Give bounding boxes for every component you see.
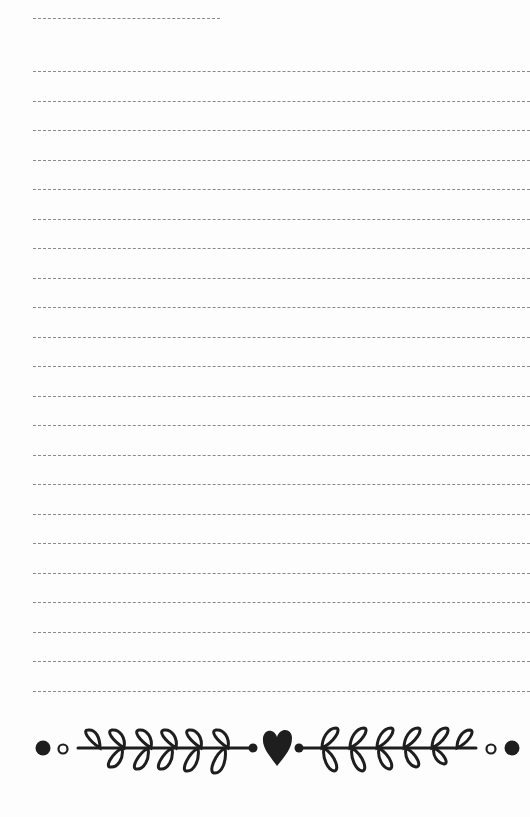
writing-line[interactable] xyxy=(33,691,530,692)
ring-icon xyxy=(487,745,496,754)
writing-lines xyxy=(0,0,530,700)
heart-icon xyxy=(263,730,292,766)
dot-icon xyxy=(505,741,520,756)
writing-line[interactable] xyxy=(33,189,530,190)
writing-line[interactable] xyxy=(33,484,530,485)
ring-icon xyxy=(59,745,68,754)
writing-line[interactable] xyxy=(33,71,530,72)
writing-line[interactable] xyxy=(33,248,530,249)
writing-line[interactable] xyxy=(33,307,530,308)
laurel-branch-right-icon xyxy=(295,728,477,771)
writing-line[interactable] xyxy=(33,278,530,279)
writing-line[interactable] xyxy=(33,602,530,603)
writing-line[interactable] xyxy=(33,130,530,131)
laurel-branch-left-icon xyxy=(78,730,258,773)
writing-line[interactable] xyxy=(33,337,530,338)
writing-line[interactable] xyxy=(33,573,530,574)
writing-line[interactable] xyxy=(33,661,530,662)
writing-line[interactable] xyxy=(33,160,530,161)
writing-line[interactable] xyxy=(33,514,530,515)
ornament-divider xyxy=(0,712,530,782)
dot-icon xyxy=(36,741,51,756)
writing-line[interactable] xyxy=(33,543,530,544)
writing-line[interactable] xyxy=(33,425,530,426)
writing-line[interactable] xyxy=(33,219,530,220)
writing-line[interactable] xyxy=(33,366,530,367)
writing-line[interactable] xyxy=(33,396,530,397)
writing-line[interactable] xyxy=(33,101,530,102)
writing-line[interactable] xyxy=(33,632,530,633)
writing-line[interactable] xyxy=(33,455,530,456)
